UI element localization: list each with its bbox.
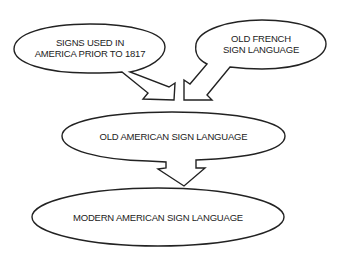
node-old-french-line2: SIGN LANGUAGE — [196, 44, 326, 55]
node-old-american: OLD AMERICAN SIGN LANGUAGE — [62, 131, 285, 142]
node-signs-america-shape — [14, 24, 175, 100]
node-modern-american-label: MODERN AMERICAN SIGN LANGUAGE — [32, 212, 284, 223]
node-old-american-label: OLD AMERICAN SIGN LANGUAGE — [62, 131, 285, 142]
node-old-french-line1: OLD FRENCH — [196, 33, 326, 44]
node-signs-america: SIGNS USED IN AMERICA PRIOR TO 1817 — [14, 37, 166, 59]
node-old-american-shape — [62, 112, 285, 186]
node-modern-american: MODERN AMERICAN SIGN LANGUAGE — [32, 212, 284, 223]
node-signs-america-line2: AMERICA PRIOR TO 1817 — [14, 48, 166, 59]
node-old-french: OLD FRENCH SIGN LANGUAGE — [196, 33, 326, 55]
node-signs-america-line1: SIGNS USED IN — [14, 37, 166, 48]
node-old-french-shape — [184, 20, 326, 100]
